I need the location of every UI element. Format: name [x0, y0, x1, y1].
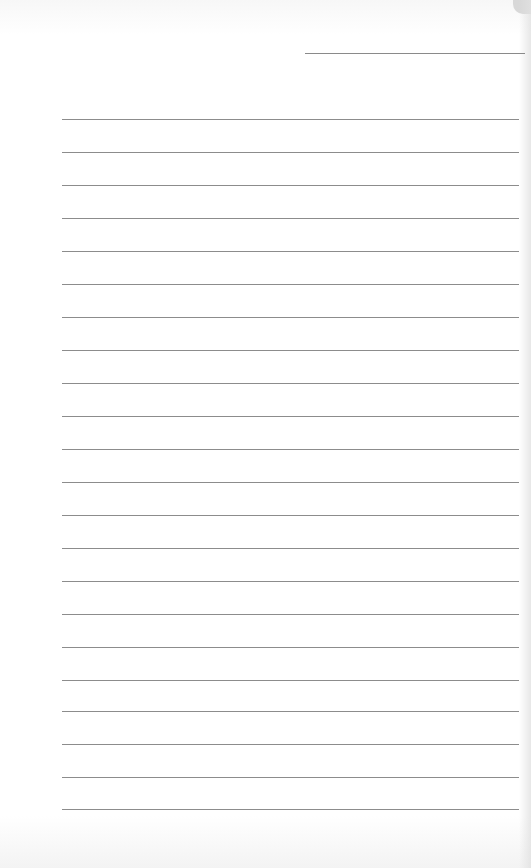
ruled-line [62, 119, 519, 120]
ruled-line [62, 383, 519, 384]
ruled-line [62, 449, 519, 450]
ruled-line [62, 350, 519, 351]
ruled-line [62, 482, 519, 483]
ruled-line [62, 515, 519, 516]
ruled-line [62, 744, 519, 745]
ruled-line [62, 777, 519, 778]
ruled-line [62, 317, 519, 318]
ruled-line [62, 809, 519, 810]
ruled-line [62, 711, 519, 712]
ruled-line [62, 251, 519, 252]
ruled-line [62, 152, 519, 153]
ruled-line [62, 284, 519, 285]
ruled-line [62, 647, 519, 648]
ruled-line [62, 614, 519, 615]
ruled-line [62, 680, 519, 681]
ruled-line [62, 548, 519, 549]
ruled-line [62, 581, 519, 582]
paper-edge-shadow [519, 0, 531, 868]
ruled-line [62, 185, 519, 186]
ruled-line [62, 218, 519, 219]
date-line [305, 53, 525, 54]
ruled-line [62, 416, 519, 417]
lined-paper-sheet [0, 0, 531, 868]
